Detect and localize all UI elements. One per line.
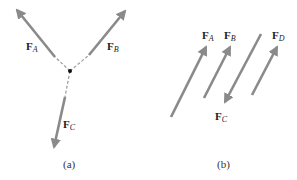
dash-line-c [65, 71, 70, 97]
label-fa-a: FA [26, 41, 38, 52]
force-arrow-fd-parallel [252, 47, 277, 95]
caption-a: (a) [63, 159, 75, 170]
concurrent-point [68, 69, 72, 73]
label-fd-b: FD [272, 30, 285, 41]
label-fc-b: FC [215, 111, 227, 122]
diagram-canvas [0, 0, 297, 180]
force-arrow-fb-parallel [204, 47, 230, 98]
dash-line-b [70, 55, 89, 71]
label-fc-a: FC [63, 119, 75, 130]
label-fa-b: FA [202, 30, 214, 41]
caption-b: (b) [217, 159, 230, 170]
dash-line-a [55, 57, 70, 71]
label-fb-b: FB [224, 30, 236, 41]
label-fb-a: FB [107, 41, 119, 52]
figure-b [171, 34, 277, 117]
force-arrow-fc-parallel [225, 34, 261, 102]
force-arrow-fa-parallel [171, 47, 206, 117]
